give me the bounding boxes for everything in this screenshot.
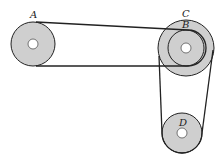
label-d: D <box>178 117 187 128</box>
label-a: A <box>29 9 37 20</box>
label-c: C <box>182 8 190 19</box>
label-b: B <box>181 19 189 30</box>
pulley-a <box>11 22 55 66</box>
pulley-b <box>168 30 204 66</box>
pulley-diagram: A C B D <box>0 0 224 161</box>
